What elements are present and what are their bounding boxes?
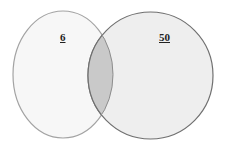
- venn-diagram: [0, 0, 226, 148]
- right-set-count: 50: [159, 32, 170, 43]
- left-set-count: 6: [60, 32, 66, 43]
